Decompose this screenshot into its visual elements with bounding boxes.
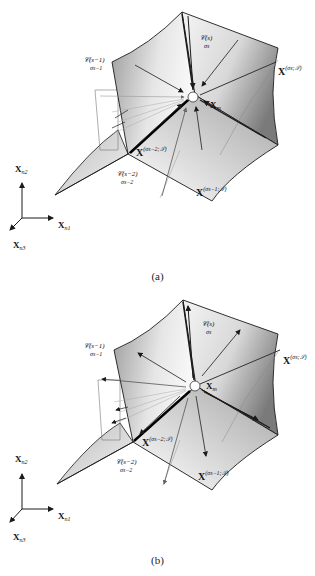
center-node xyxy=(188,92,198,102)
label-surface-s: 𝒞(s) xyxy=(202,320,215,328)
diagram-b: 𝒞(s) σs 𝒞(s−1) σs−1 𝒞(s−2) σs−2 Xm X(σs;… xyxy=(0,290,315,576)
svg-text:Xn3: Xn3 xyxy=(13,532,26,543)
svg-text:Xn1: Xn1 xyxy=(58,220,71,231)
label-surface-s1-sub: σs−1 xyxy=(90,65,102,71)
label-surface-s2: 𝒞(s−2) xyxy=(116,458,137,466)
label-x-sigma-s: X(σs;𝒮) xyxy=(278,65,302,77)
axes-b: Xn2 Xn1 Xn3 xyxy=(10,454,71,543)
label-x-sigma-s: X(σs;𝒮) xyxy=(283,354,307,366)
label-surface-s2-sub: σs−2 xyxy=(121,179,133,185)
label-surface-s1: 𝒞(s−1) xyxy=(84,342,105,350)
svg-text:Xn3: Xn3 xyxy=(13,240,26,251)
panel-b: 𝒞(s) σs 𝒞(s−1) σs−1 𝒞(s−2) σs−2 Xm X(σs;… xyxy=(0,290,315,576)
label-surface-s2: 𝒞(s−2) xyxy=(117,170,138,178)
svg-text:Xn2: Xn2 xyxy=(15,454,28,465)
svg-text:Xn1: Xn1 xyxy=(58,511,71,522)
label-surface-s-sub: σs xyxy=(204,43,210,49)
label-surface-s2-sub: σs−2 xyxy=(120,467,132,473)
surface-s2-left-sheet xyxy=(57,423,133,484)
svg-text:Xn2: Xn2 xyxy=(15,164,28,175)
caption-b: (b) xyxy=(0,554,315,566)
axes-a: Xn2 Xn1 Xn3 xyxy=(10,164,71,251)
panel-a: 𝒞(s) σs 𝒞(s−1) σs−1 𝒞(s−2) σs−2 Xm X(σs;… xyxy=(0,0,315,290)
surface-s2-left-sheet xyxy=(55,130,128,195)
label-surface-s: 𝒞(s) xyxy=(200,34,213,42)
diagram-a: 𝒞(s) σs 𝒞(s−1) σs−1 𝒞(s−2) σs−2 Xm X(σs;… xyxy=(0,0,315,290)
center-node xyxy=(190,381,200,391)
caption-a: (a) xyxy=(0,270,315,282)
label-surface-s1: 𝒞(s−1) xyxy=(84,56,105,64)
label-surface-s1-sub: σs−1 xyxy=(90,351,102,357)
label-surface-s-sub: σs xyxy=(206,329,212,335)
